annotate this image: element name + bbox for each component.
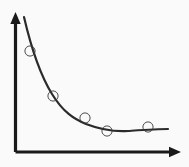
plot-svg (0, 0, 189, 167)
plot-background (0, 0, 189, 167)
figure-canvas (0, 0, 189, 167)
